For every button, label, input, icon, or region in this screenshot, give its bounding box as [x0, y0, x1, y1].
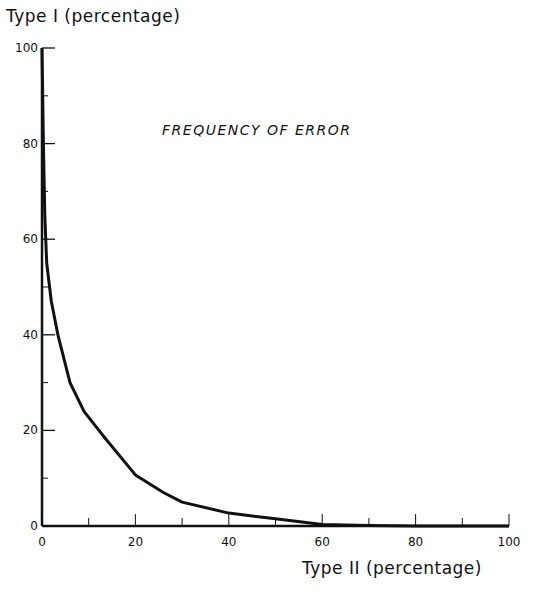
y-tick-label: 40 [23, 328, 38, 342]
x-tick-label: 0 [38, 535, 46, 549]
x-tick-label: 100 [498, 535, 521, 549]
x-tick-label: 80 [408, 535, 423, 549]
y-tick-label: 60 [23, 232, 38, 246]
plot-area: 020406080100020406080100 [0, 0, 539, 596]
y-tick-label: 100 [15, 41, 38, 55]
ticks: 020406080100020406080100 [15, 41, 520, 549]
x-tick-label: 40 [221, 535, 236, 549]
y-tick-label: 0 [30, 519, 38, 533]
x-tick-label: 20 [128, 535, 143, 549]
x-tick-label: 60 [315, 535, 330, 549]
error-curve [42, 48, 509, 526]
axes [42, 48, 509, 526]
y-tick-label: 80 [23, 137, 38, 151]
y-tick-label: 20 [23, 423, 38, 437]
